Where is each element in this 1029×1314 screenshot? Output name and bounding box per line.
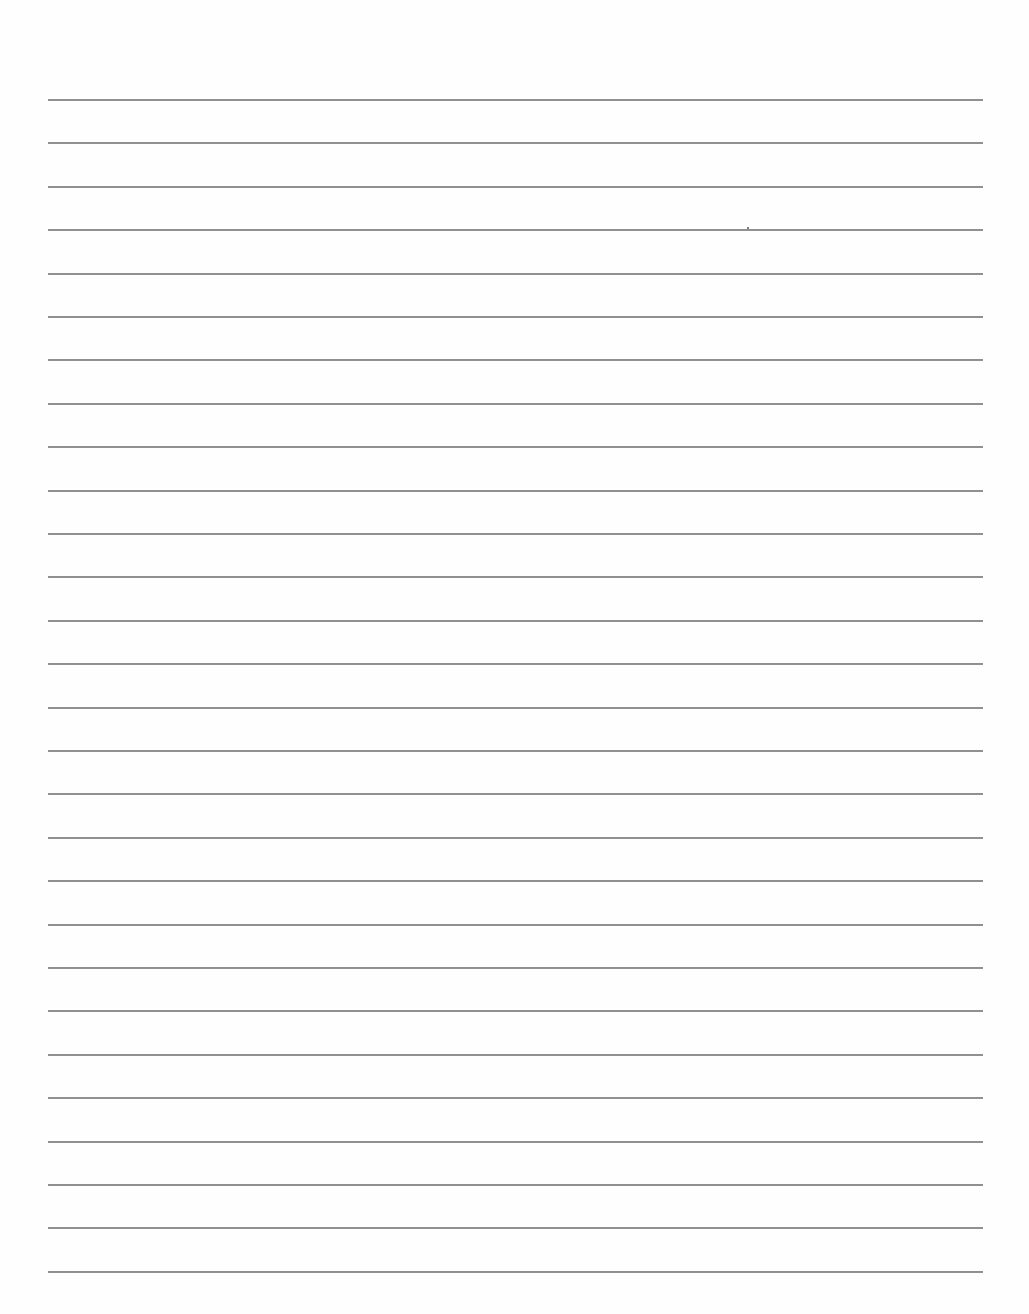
ruled-line bbox=[48, 837, 983, 839]
ruled-line bbox=[48, 750, 983, 752]
ruled-line bbox=[48, 967, 983, 969]
ruled-line bbox=[48, 99, 983, 101]
ruled-line bbox=[48, 707, 983, 709]
ruled-line bbox=[48, 1271, 983, 1273]
ruled-line bbox=[48, 316, 983, 318]
ruled-line bbox=[48, 403, 983, 405]
ruled-line bbox=[48, 663, 983, 665]
ruled-line bbox=[48, 1097, 983, 1099]
ruled-line bbox=[48, 533, 983, 535]
ruled-line bbox=[48, 186, 983, 188]
ruled-line bbox=[48, 620, 983, 622]
ruled-line bbox=[48, 359, 983, 361]
ruled-line bbox=[48, 490, 983, 492]
ruled-line bbox=[48, 1141, 983, 1143]
ruled-line bbox=[48, 1227, 983, 1229]
ruled-line bbox=[48, 576, 983, 578]
ruled-page bbox=[0, 0, 1029, 1314]
ink-speck bbox=[747, 227, 749, 229]
ruled-line bbox=[48, 229, 983, 231]
ruled-line bbox=[48, 273, 983, 275]
ruled-line bbox=[48, 880, 983, 882]
ruled-line bbox=[48, 446, 983, 448]
ruled-line bbox=[48, 924, 983, 926]
ruled-line bbox=[48, 1054, 983, 1056]
ruled-line bbox=[48, 1010, 983, 1012]
ruled-line bbox=[48, 1184, 983, 1186]
ruled-line bbox=[48, 142, 983, 144]
ruled-line bbox=[48, 793, 983, 795]
